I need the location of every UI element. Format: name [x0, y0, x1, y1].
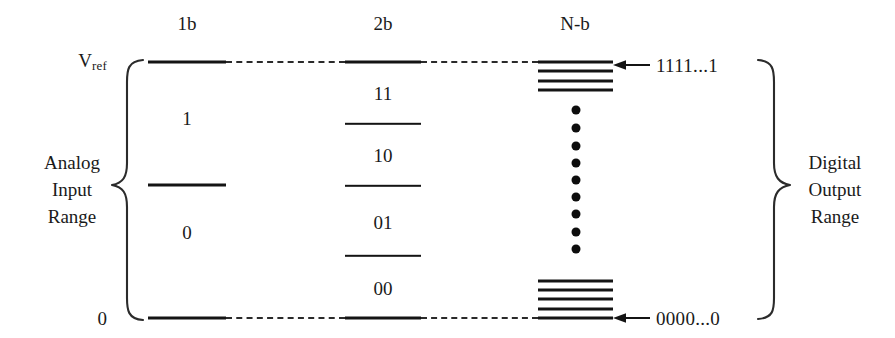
code-label-2b-00: 00 [374, 279, 393, 298]
ellipsis-dot [572, 210, 581, 219]
level-line-nb-bottom-3 [538, 298, 613, 301]
level-line-2b-b2 [345, 185, 421, 187]
ellipsis-dot [572, 124, 581, 133]
axis-label-zero: 0 [98, 309, 108, 328]
level-line-nb-top-2 [538, 70, 613, 73]
vector-overlay [0, 0, 895, 338]
level-line-1b-mid [148, 184, 226, 187]
right-brace-label: Digital Output Range [809, 150, 862, 231]
level-line-nb-top-3 [538, 80, 613, 83]
code-label-1b-1: 1 [182, 109, 192, 128]
level-line-nb-top-1 [538, 61, 613, 64]
level-line-2b-b3 [345, 255, 421, 257]
right-brace-label-line-3: Range [809, 203, 862, 230]
right-brace-label-line-1: Digital [809, 150, 862, 177]
axis-label-vref: Vref [78, 51, 107, 73]
level-line-2b-b1 [345, 123, 421, 125]
adc-quantization-diagram: 1b 2b N-b Vref 0 1 0 11 10 01 00 1111...… [0, 0, 895, 338]
arrow-bottom-code-icon [613, 313, 650, 323]
dashed-connector-top-right [421, 61, 538, 63]
ellipsis-dot [572, 193, 581, 202]
annotation-label-top-code: 1111...1 [656, 56, 718, 75]
left-brace-label: Analog Input Range [44, 150, 100, 231]
dashed-connector-bottom-right [421, 317, 538, 319]
level-line-2b-top [345, 61, 421, 64]
level-line-2b-bottom [345, 317, 421, 320]
arrow-top-code-icon [613, 60, 650, 70]
left-brace-label-line-2: Input [44, 177, 100, 204]
left-brace-label-line-3: Range [44, 203, 100, 230]
annotation-label-bottom-code: 0000...0 [656, 309, 720, 328]
ellipsis-dot [572, 176, 581, 185]
level-line-nb-bottom-4 [538, 308, 613, 311]
left-brace-label-line-1: Analog [44, 150, 100, 177]
ellipsis-dot [572, 159, 581, 168]
ellipsis-dot [572, 228, 581, 237]
dashed-connector-bottom-left [226, 317, 345, 319]
dashed-connector-top-left [226, 61, 345, 63]
right-brace-label-line-2: Output [809, 177, 862, 204]
ellipsis-dot [572, 142, 581, 151]
vref-subscript: ref [92, 58, 107, 73]
level-line-nb-top-4 [538, 89, 613, 92]
level-line-nb-bottom-2 [538, 289, 613, 292]
right-brace-icon [758, 60, 790, 319]
left-brace-icon [112, 60, 143, 320]
column-header-nb: N-b [560, 14, 590, 33]
level-line-nb-bottom-5 [538, 317, 613, 320]
code-label-2b-11: 11 [374, 84, 392, 103]
vref-symbol: V [78, 50, 92, 71]
level-line-1b-top [148, 61, 226, 64]
level-line-1b-bottom [148, 317, 226, 320]
column-header-2b: 2b [374, 14, 393, 33]
ellipsis-dot [572, 245, 581, 254]
code-label-2b-01: 01 [374, 213, 393, 232]
ellipsis-dot [572, 106, 581, 115]
code-label-1b-0: 0 [182, 223, 192, 242]
level-line-nb-bottom-1 [538, 280, 613, 283]
column-header-1b: 1b [178, 14, 197, 33]
code-label-2b-10: 10 [374, 146, 393, 165]
